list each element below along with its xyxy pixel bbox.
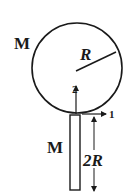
rod-mass-label: M xyxy=(47,138,63,157)
sphere-mass-label: M xyxy=(14,34,30,53)
rod xyxy=(70,115,80,190)
axis-2-label: 2 xyxy=(72,83,78,95)
diagram-canvas: M R 2 1 M 2R xyxy=(0,0,132,194)
rod-length-label: 2R xyxy=(82,151,103,170)
axis-1-label: 1 xyxy=(109,108,115,120)
radius-label: R xyxy=(79,45,91,64)
sphere xyxy=(32,23,122,113)
